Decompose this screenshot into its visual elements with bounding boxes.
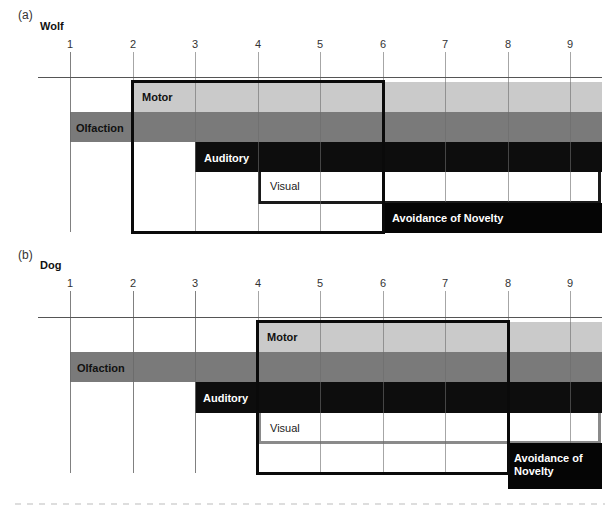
tick-label: 6 [373,38,393,50]
gridline-9 [570,52,571,202]
tick-label: 3 [185,38,205,50]
bar-label-olfaction: Olfaction [76,122,124,134]
gridline-8 [508,52,509,202]
gridline-3 [195,291,196,473]
bar-label-olfaction: Olfaction [77,362,125,374]
bar-avoidance-of-novelty: Avoidance of Novelty [383,203,602,233]
panel-letter-b: (b) [18,248,33,262]
gridline-7 [445,52,446,202]
bar-avoidance-of-novelty: Avoidance of Novelty [508,443,602,489]
bar-label-auditory: Auditory [203,392,248,404]
panel-letter-a: (a) [18,8,33,22]
gridline-1 [70,52,71,232]
panel-title-wolf: Wolf [40,20,64,32]
panel-title-dog: Dog [40,259,61,271]
tick-label: 6 [373,277,393,289]
tick-label: 2 [123,38,143,50]
tick-label: 3 [185,277,205,289]
bar-label-avoidance: Avoidance of Novelty [392,212,503,224]
axis-line [38,77,602,78]
tick-label: 4 [248,277,268,289]
tick-label: 8 [498,277,518,289]
socialization-window-outline [256,320,510,475]
bar-label-avoidance-line2: Novelty [514,465,554,478]
tick-label: 9 [560,277,580,289]
tick-label: 5 [310,38,330,50]
gridline-9 [570,291,571,443]
tick-label: 8 [498,38,518,50]
socialization-window-outline [131,80,385,234]
gridline-2 [133,291,134,473]
tick-label: 7 [435,38,455,50]
tick-label: 2 [123,277,143,289]
tick-label: 1 [60,277,80,289]
tick-label: 9 [560,38,580,50]
bar-label-avoidance-line1: Avoidance of [514,452,583,465]
gridline-1 [70,291,71,473]
tick-label: 1 [60,38,80,50]
tick-label: 5 [310,277,330,289]
figure-caption-cutoff [15,500,605,505]
axis-line [38,317,602,318]
tick-label: 4 [248,38,268,50]
tick-label: 7 [435,277,455,289]
